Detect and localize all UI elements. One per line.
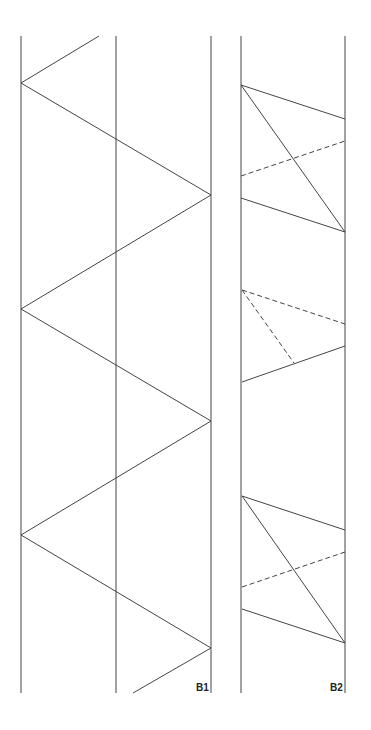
- panel-b2: [241, 36, 345, 693]
- b2-dashed-segment: [242, 290, 345, 324]
- b2-solid-diagonal: [241, 85, 345, 232]
- b2-solid-segment: [241, 85, 345, 119]
- b2-solid-segment: [241, 198, 345, 232]
- b2-unit-3: [242, 496, 345, 643]
- b2-unit-2: [242, 290, 345, 382]
- b2-solid-segment: [242, 346, 345, 382]
- panel-label-b2: B2: [330, 682, 343, 693]
- panel-b1: [21, 36, 211, 693]
- b2-solid-diagonal: [242, 496, 345, 643]
- b2-solid-segment: [242, 609, 345, 643]
- b2-solid-segment: [242, 496, 345, 530]
- diagram-canvas: [0, 0, 371, 730]
- b2-dashed-diagonal: [242, 290, 294, 363]
- panel-label-b1: B1: [196, 682, 209, 693]
- b2-unit-1: [241, 85, 345, 232]
